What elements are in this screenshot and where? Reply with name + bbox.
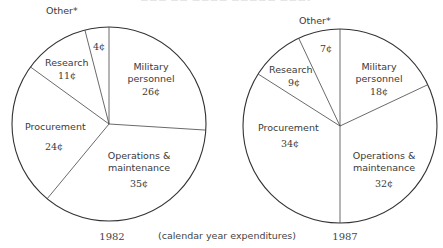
label-other-1987: Other* bbox=[299, 15, 331, 26]
year-label-1987: 1987 bbox=[332, 231, 357, 242]
label-military-1987-line2: personnel bbox=[355, 73, 402, 84]
value-om-1987: 32¢ bbox=[375, 178, 393, 189]
label-military-1982-line2: personnel bbox=[127, 73, 174, 84]
label-research-1987: Research bbox=[269, 64, 313, 75]
label-other-1982: Other* bbox=[46, 5, 78, 16]
value-other-1987: 7¢ bbox=[320, 43, 332, 54]
value-procurement-1987: 34¢ bbox=[281, 138, 299, 149]
label-military-1987-line1: Military bbox=[361, 61, 397, 72]
label-procurement-1987: Procurement bbox=[258, 122, 319, 133]
chart-caption: (calendar year expenditures) bbox=[158, 230, 296, 241]
value-military-1982: 26¢ bbox=[142, 86, 160, 97]
pie-chart-figure: Other* 4¢ Research 11¢ Military personne… bbox=[0, 0, 443, 248]
value-procurement-1982: 24¢ bbox=[45, 141, 63, 152]
value-research-1982: 11¢ bbox=[58, 70, 76, 81]
value-om-1982: 35¢ bbox=[130, 178, 148, 189]
label-om-1987-line2: maintenance bbox=[353, 162, 415, 173]
value-military-1987: 18¢ bbox=[370, 86, 388, 97]
year-label-1982: 1982 bbox=[99, 231, 124, 242]
value-other-1982: 4¢ bbox=[93, 41, 105, 52]
label-military-1982-line1: Military bbox=[133, 61, 169, 72]
label-procurement-1982: Procurement bbox=[25, 121, 86, 132]
label-om-1982-line2: maintenance bbox=[108, 162, 170, 173]
label-om-1987-line1: Operations & bbox=[353, 150, 416, 161]
label-research-1982: Research bbox=[45, 57, 89, 68]
label-om-1982-line1: Operations & bbox=[108, 150, 171, 161]
pie-1987: Other* 7¢ Research 9¢ Military personnel… bbox=[243, 15, 437, 223]
pie-1982: Other* 4¢ Research 11¢ Military personne… bbox=[12, 5, 206, 221]
value-research-1987: 9¢ bbox=[288, 77, 300, 88]
